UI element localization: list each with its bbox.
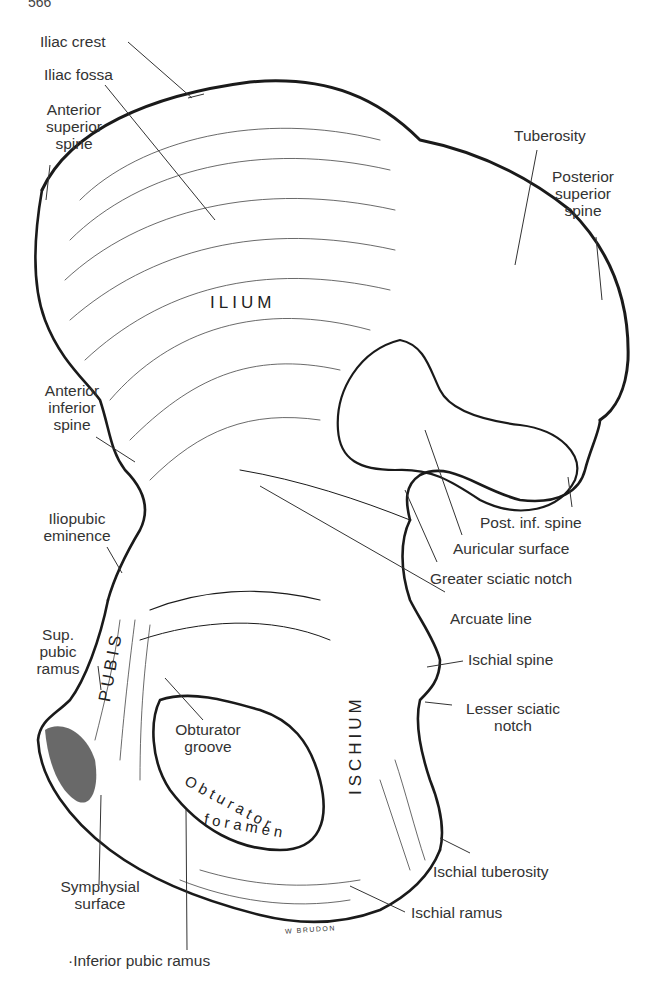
label-auricular-surface: Auricular surface [453, 540, 569, 557]
label-sup-pubic-ramus: Sup. pubic ramus [28, 626, 88, 677]
label-tuberosity: Tuberosity [514, 127, 586, 144]
label-obturator-groove: Obturator groove [165, 721, 251, 755]
label-greater-sciatic-notch: Greater sciatic notch [430, 570, 572, 587]
superior-pubic-ramus-outline [38, 600, 440, 922]
label-iliac-fossa: Iliac fossa [44, 66, 113, 83]
label-post-inf-spine: Post. inf. spine [480, 514, 582, 531]
auricular-surface-outline [338, 340, 577, 510]
region-ilium: ILIUM [210, 293, 275, 313]
label-posterior-superior-spine: Posterior superior spine [545, 168, 621, 219]
label-anterior-inferior-spine: Anterior inferior spine [34, 382, 110, 433]
label-iliopubic-eminence: Iliopubic eminence [34, 510, 120, 544]
label-anterior-superior-spine: Anterior superior spine [36, 101, 112, 152]
symphysial-surface-shading [45, 726, 96, 802]
label-ischial-tuberosity: Ischial tuberosity [433, 863, 548, 880]
label-inferior-pubic-ramus: ·Inferior pubic ramus [68, 952, 210, 969]
label-lesser-sciatic-notch: Lesser sciatic notch [455, 700, 571, 734]
greater-sciatic-notch-outline [407, 420, 600, 520]
label-arcuate-line: Arcuate line [450, 610, 532, 627]
label-ischial-spine: Ischial spine [468, 651, 553, 668]
label-ischial-ramus: Ischial ramus [411, 904, 502, 921]
region-ischium: ISCHIUM [346, 695, 366, 795]
label-symphysial-surface: Symphysial surface [50, 878, 150, 912]
hip-bone-diagram: 566 [0, 0, 649, 995]
label-iliac-crest: Iliac crest [40, 33, 105, 50]
